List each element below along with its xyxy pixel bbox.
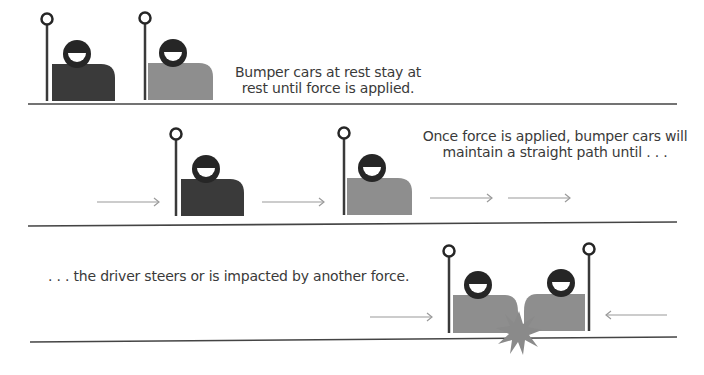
bumper-car-dark-icon xyxy=(171,129,245,217)
caption-line: rest until force is applied. xyxy=(228,80,428,96)
floor-line xyxy=(28,222,677,226)
caption-collision: . . . the driver steers or is impacted b… xyxy=(48,268,398,284)
bumper-car-light-icon xyxy=(339,128,413,216)
caption-line: . . . the driver steers or is impacted b… xyxy=(48,268,398,284)
force-arrow-icon xyxy=(97,198,159,206)
caption-line: Bumper cars at rest stay at xyxy=(228,64,428,80)
caption-line: maintain a straight path until . . . xyxy=(405,144,704,160)
caption-line: Once force is applied, bumper cars will xyxy=(405,128,704,144)
caption-in-motion: Once force is applied, bumper cars will … xyxy=(405,128,704,160)
caption-at-rest: Bumper cars at rest stay at rest until f… xyxy=(228,64,428,96)
force-arrow-icon xyxy=(370,313,432,321)
floor-line xyxy=(30,337,677,342)
force-arrow-icon xyxy=(262,198,324,206)
panel-collision xyxy=(30,244,677,356)
bumper-car-left-icon xyxy=(444,246,519,334)
bumper-car-light-icon xyxy=(140,13,214,101)
bumper-car-right-icon xyxy=(524,244,595,332)
force-arrow-icon xyxy=(508,194,570,202)
force-arrow-icon xyxy=(430,194,492,202)
force-arrow-left-icon xyxy=(606,311,667,319)
bumper-car-diagram xyxy=(0,0,704,375)
bumper-car-dark-icon xyxy=(42,14,116,102)
